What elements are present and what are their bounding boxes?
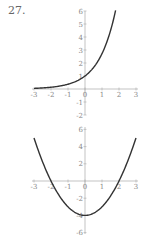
function-curve: [34, 10, 116, 88]
y-tick-label: 6: [79, 8, 84, 16]
x-tick-label: 0: [83, 183, 87, 191]
x-tick-label: 3: [134, 183, 138, 191]
x-tick-label: -3: [31, 91, 38, 99]
parabola-chart: -3-2-10123-6-4-2246: [31, 126, 139, 237]
y-tick-label: -1: [76, 99, 83, 107]
x-tick-label: -1: [65, 91, 72, 99]
y-tick-label: 5: [79, 21, 83, 29]
y-tick-label: -2: [76, 195, 83, 203]
x-tick-label: 0: [83, 91, 87, 99]
x-tick-label: 3: [134, 91, 138, 99]
y-tick-label: 6: [79, 126, 84, 134]
y-tick-label: -6: [76, 229, 83, 237]
y-tick-label: 3: [79, 47, 83, 55]
y-tick-label: -2: [76, 112, 83, 120]
y-tick-label: 4: [79, 34, 84, 42]
y-tick-label: 4: [79, 143, 84, 151]
x-tick-label: 2: [117, 91, 121, 99]
exp-chart: -3-2-10123-2-1123456: [31, 8, 139, 120]
x-tick-label: 1: [100, 91, 104, 99]
y-tick-label: 2: [79, 60, 83, 68]
plots-canvas: -3-2-10123-2-1123456-3-2-10123-6-4-2246: [0, 0, 150, 237]
y-tick-label: 2: [79, 160, 83, 168]
x-tick-label: 1: [100, 183, 104, 191]
x-tick-label: -3: [31, 183, 38, 191]
x-tick-label: -2: [48, 91, 55, 99]
x-tick-label: -1: [65, 183, 72, 191]
